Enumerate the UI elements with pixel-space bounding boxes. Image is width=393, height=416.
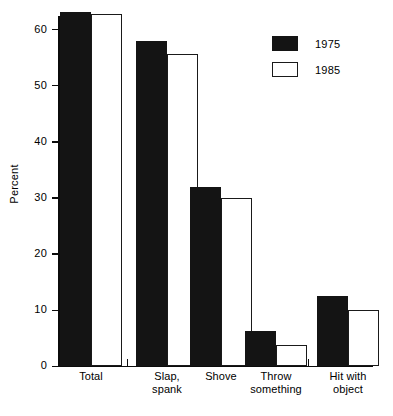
x-group-label-total: Total	[55, 370, 127, 383]
y-tick-40	[52, 141, 58, 142]
y-tick-label-60: 60	[7, 24, 47, 35]
bar-hit-with-object-1975	[317, 296, 348, 366]
bar-total-1985	[91, 14, 122, 366]
y-tick-60	[52, 29, 58, 30]
bar-slap-spank-1975	[136, 41, 167, 366]
y-tick-label-30: 30	[7, 192, 47, 203]
y-tick-10	[52, 310, 58, 311]
legend: 1975 1985	[272, 33, 340, 85]
bar-total-1975	[60, 12, 91, 366]
bar-hit-with-object-1985	[348, 310, 379, 366]
bar-shove-1975	[190, 187, 221, 366]
y-tick-30	[52, 197, 58, 198]
legend-label-1985: 1985	[315, 64, 340, 76]
x-group-label-throw-something: Throw something	[240, 370, 312, 396]
y-axis-title: Percent	[8, 149, 20, 219]
y-tick-label-40: 40	[7, 136, 47, 147]
legend-label-1975: 1975	[315, 38, 340, 50]
legend-swatch-1985	[272, 62, 298, 77]
y-tick-0	[52, 366, 58, 367]
x-separator-tick-1	[127, 359, 128, 366]
x-separator-tick-2	[308, 359, 309, 366]
legend-entry-1985: 1985	[272, 59, 340, 80]
bar-throw-something-1985	[276, 345, 307, 366]
y-tick-label-0: 0	[7, 360, 47, 371]
y-tick-label-10: 10	[7, 304, 47, 315]
y-tick-label-50: 50	[7, 80, 47, 91]
bar-throw-something-1975	[245, 331, 276, 366]
legend-entry-1975: 1975	[272, 33, 340, 54]
x-group-label-hit-with-object: Hit with object	[312, 370, 384, 396]
y-tick-50	[52, 85, 58, 86]
y-tick-label-20: 20	[7, 248, 47, 259]
y-tick-20	[52, 253, 58, 254]
bar-chart: Percent 0 10 20 30 40 50 60 Total Slap, …	[0, 0, 393, 416]
legend-swatch-1975	[272, 36, 298, 51]
